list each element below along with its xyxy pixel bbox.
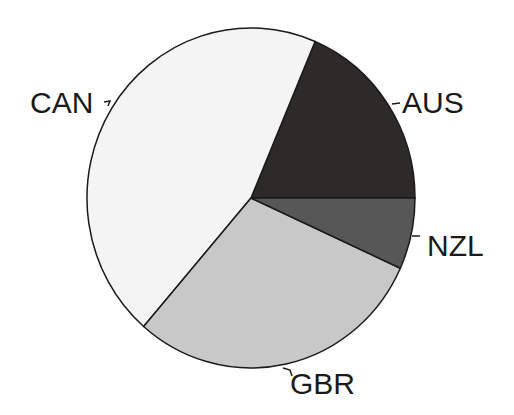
- slice-label-gbr: GBR: [290, 367, 355, 400]
- slice-label-aus: AUS: [402, 86, 464, 119]
- leader-line-can: [104, 101, 110, 106]
- leader-line-aus: [392, 103, 400, 104]
- slice-label-can: CAN: [30, 86, 93, 119]
- slice-label-nzl: NZL: [427, 229, 484, 262]
- pie-chart: CAN AUS NZL GBR: [0, 0, 514, 415]
- pie-chart-canvas: CAN AUS NZL GBR: [0, 0, 514, 415]
- pie-slices: [87, 28, 415, 368]
